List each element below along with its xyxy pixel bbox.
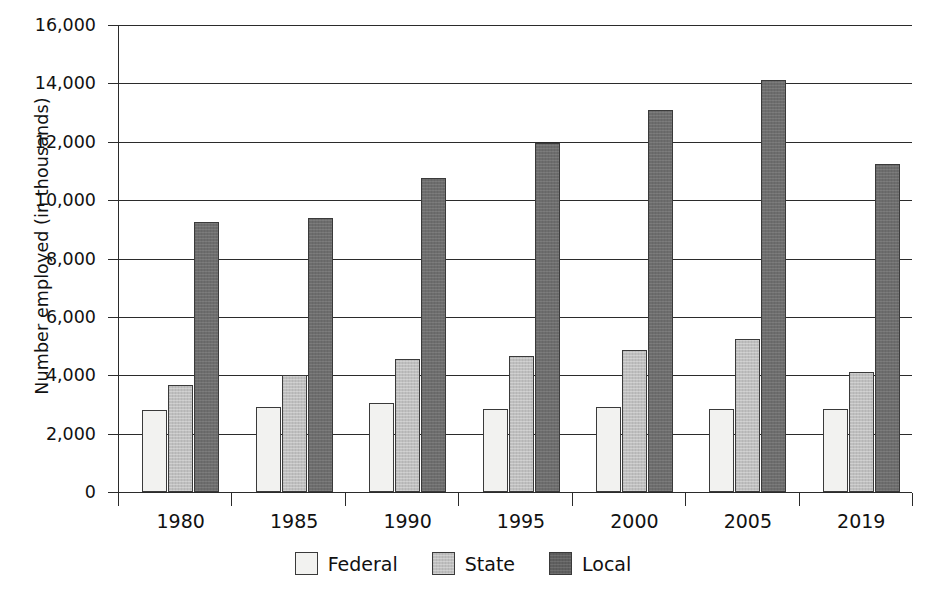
x-tick-label-2000: 2000: [574, 510, 694, 532]
x-tick-label-1990: 1990: [348, 510, 468, 532]
y-tick-label: 0: [85, 482, 96, 502]
bar-federal-1980: [142, 410, 167, 492]
legend-item-local[interactable]: Local: [549, 552, 631, 575]
bar-group: [483, 25, 560, 492]
bar-group: [823, 25, 900, 492]
legend-label-state: State: [465, 553, 515, 575]
x-tick-label-1985: 1985: [234, 510, 354, 532]
bar-local-1995: [535, 143, 560, 492]
y-tick-label: 12,000: [35, 132, 96, 152]
x-tick-label-2005: 2005: [688, 510, 808, 532]
y-tick-label: 10,000: [35, 190, 96, 210]
y-tick-mark: [108, 142, 118, 143]
bar-state-1980: [168, 385, 193, 492]
x-tick-mark: [572, 493, 573, 506]
legend-label-local: Local: [582, 553, 631, 575]
bar-group: [142, 25, 219, 492]
x-tick-mark: [118, 493, 119, 506]
y-tick-mark: [108, 317, 118, 318]
y-tick-label: 14,000: [35, 73, 96, 93]
x-tick-mark: [458, 493, 459, 506]
legend-label-federal: Federal: [328, 553, 398, 575]
local-swatch-icon: [549, 552, 572, 575]
chart-legend: FederalStateLocal: [0, 552, 926, 575]
x-tick-label-2019: 2019: [801, 510, 921, 532]
bar-local-1990: [421, 178, 446, 492]
bar-state-1990: [395, 359, 420, 492]
y-axis-title: Number employed (in thousands): [32, 36, 52, 456]
federal-swatch-icon: [295, 552, 318, 575]
bar-state-2019: [849, 372, 874, 492]
bar-state-2005: [735, 339, 760, 492]
bar-federal-2000: [596, 407, 621, 492]
bar-local-2005: [761, 80, 786, 492]
legend-item-federal[interactable]: Federal: [295, 552, 398, 575]
bar-group: [256, 25, 333, 492]
bar-local-2019: [875, 164, 900, 492]
y-tick-mark: [108, 259, 118, 260]
bar-group: [369, 25, 446, 492]
y-tick-label: 4,000: [46, 365, 96, 385]
bar-local-1980: [194, 222, 219, 492]
x-tick-mark: [231, 493, 232, 506]
bar-federal-2019: [823, 409, 848, 492]
bar-local-2000: [648, 110, 673, 492]
y-tick-mark: [108, 83, 118, 84]
x-tick-label-1995: 1995: [461, 510, 581, 532]
bar-group: [709, 25, 786, 492]
bar-state-2000: [622, 350, 647, 492]
y-tick-label: 2,000: [46, 424, 96, 444]
bar-federal-1985: [256, 407, 281, 492]
y-tick-mark: [108, 492, 118, 493]
x-axis-line: [118, 492, 912, 493]
x-tick-mark: [685, 493, 686, 506]
bar-state-1985: [282, 375, 307, 492]
y-tick-mark: [108, 25, 118, 26]
y-tick-mark: [108, 200, 118, 201]
bar-local-1985: [308, 218, 333, 492]
state-swatch-icon: [432, 552, 455, 575]
bar-group: [596, 25, 673, 492]
y-tick-mark: [108, 375, 118, 376]
y-tick-label: 8,000: [46, 249, 96, 269]
x-tick-label-1980: 1980: [121, 510, 241, 532]
bar-chart: Number employed (in thousands) 02,0004,0…: [0, 0, 926, 598]
bar-federal-2005: [709, 409, 734, 492]
y-tick-label: 16,000: [35, 15, 96, 35]
y-tick-label: 6,000: [46, 307, 96, 327]
legend-item-state[interactable]: State: [432, 552, 515, 575]
bar-state-1995: [509, 356, 534, 492]
bar-federal-1990: [369, 403, 394, 492]
x-tick-mark: [912, 493, 913, 506]
x-tick-mark: [799, 493, 800, 506]
x-tick-mark: [345, 493, 346, 506]
bar-federal-1995: [483, 409, 508, 492]
plot-area: [118, 25, 912, 492]
y-tick-mark: [108, 434, 118, 435]
